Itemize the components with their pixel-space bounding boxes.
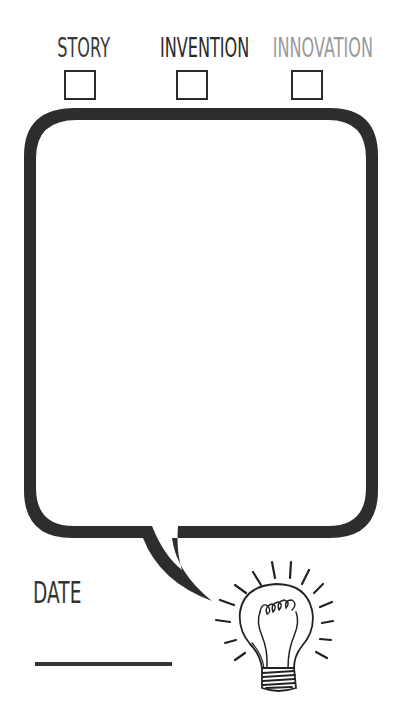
date-line[interactable]: [35, 662, 172, 666]
bubble-writing-area[interactable]: [38, 122, 366, 526]
date-label: DATE: [33, 577, 81, 609]
lightbulb-icon: [210, 550, 340, 700]
